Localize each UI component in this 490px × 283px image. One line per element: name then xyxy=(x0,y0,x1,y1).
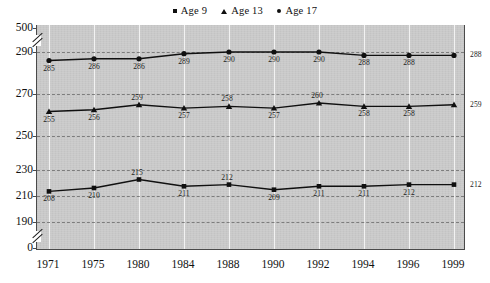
data-point-value-label: 258 xyxy=(358,110,370,118)
y-axis-tick-mark xyxy=(33,170,37,171)
data-point-marker[interactable] xyxy=(272,187,277,192)
y-axis-tick-label: 230 xyxy=(3,164,33,176)
square-marker-icon xyxy=(173,9,177,13)
y-axis-tick-label: 250 xyxy=(3,130,33,142)
axis-break-icon xyxy=(30,228,46,244)
y-axis-ticks: 5002902702502302101900 xyxy=(0,0,33,283)
data-point-marker[interactable] xyxy=(407,182,412,187)
x-axis-tick-label: 1996 xyxy=(397,259,420,271)
data-point-marker[interactable] xyxy=(406,53,411,58)
data-point-value-label: 210 xyxy=(88,192,100,200)
data-point-marker[interactable] xyxy=(452,182,457,187)
data-point-value-label: 290 xyxy=(313,56,325,64)
data-point-value-label: 211 xyxy=(358,190,369,198)
data-point-value-label: 258 xyxy=(221,95,233,103)
data-point-value-label: 215 xyxy=(131,169,143,177)
data-point-value-label: 285 xyxy=(43,65,55,73)
data-point-marker[interactable] xyxy=(46,58,51,63)
y-axis-tick-mark xyxy=(33,222,37,223)
x-axis-tick-label: 1990 xyxy=(262,259,285,271)
x-axis-tick-label: 1984 xyxy=(172,259,195,271)
y-axis-tick-mark xyxy=(33,136,37,137)
data-point-value-label: 257 xyxy=(268,112,280,120)
data-point-marker[interactable] xyxy=(451,53,456,58)
x-axis-tick-label: 1971 xyxy=(37,259,60,271)
data-point-marker[interactable] xyxy=(226,49,231,54)
data-point-value-label: 209 xyxy=(268,194,280,202)
data-point-marker[interactable] xyxy=(271,49,276,54)
data-point-value-label: 208 xyxy=(43,195,55,203)
y-axis-tick-label: 190 xyxy=(3,216,33,228)
x-axis-tick-label: 1988 xyxy=(217,259,240,271)
chart-legend: Age 9 Age 13 Age 17 xyxy=(0,6,490,17)
data-point-value-label: 211 xyxy=(313,190,324,198)
data-point-value-label: 257 xyxy=(178,112,190,120)
y-axis-tick-mark xyxy=(33,94,37,95)
plot-area xyxy=(36,25,465,250)
data-point-value-label: 288 xyxy=(470,51,482,59)
data-point-value-label: 288 xyxy=(403,59,415,67)
series-line-age-13 xyxy=(49,103,454,112)
circle-marker-icon xyxy=(277,9,281,13)
data-point-value-label: 211 xyxy=(178,190,189,198)
y-axis-tick-label: 0 xyxy=(3,242,33,254)
data-point-value-label: 258 xyxy=(403,110,415,118)
data-point-value-label: 256 xyxy=(88,114,100,122)
x-axis-tick-label: 1980 xyxy=(127,259,150,271)
data-point-value-label: 286 xyxy=(88,63,100,71)
data-point-value-label: 290 xyxy=(268,56,280,64)
data-point-value-label: 289 xyxy=(178,58,190,66)
x-axis-tick-label: 1975 xyxy=(82,259,105,271)
data-point-value-label: 212 xyxy=(403,189,415,197)
data-point-marker[interactable] xyxy=(137,177,142,182)
legend-item-age-9[interactable]: Age 9 xyxy=(173,6,207,17)
y-axis-tick-mark xyxy=(33,248,37,249)
legend-item-age-17[interactable]: Age 17 xyxy=(277,6,317,17)
triangle-marker-icon xyxy=(221,9,227,14)
data-point-value-label: 259 xyxy=(470,101,482,109)
data-point-marker[interactable] xyxy=(47,189,52,194)
legend-label-age-9: Age 9 xyxy=(181,6,207,17)
y-axis-tick-label: 290 xyxy=(3,46,33,58)
y-axis-tick-label: 500 xyxy=(3,22,33,34)
data-point-value-label: 260 xyxy=(311,92,323,100)
series-line-age-9 xyxy=(49,180,454,192)
data-point-marker[interactable] xyxy=(136,56,141,61)
data-point-marker[interactable] xyxy=(317,184,322,189)
y-axis-line xyxy=(36,25,37,250)
axis-break-icon xyxy=(30,32,46,48)
data-point-marker[interactable] xyxy=(181,51,186,56)
data-point-value-label: 288 xyxy=(358,59,370,67)
line-chart: Age 9 Age 13 Age 17 50029027025023021019… xyxy=(0,0,490,283)
series-line-age-17 xyxy=(49,52,454,61)
data-point-marker[interactable] xyxy=(182,184,187,189)
x-axis-tick-label: 1999 xyxy=(442,259,465,271)
data-point-marker[interactable] xyxy=(92,186,97,191)
data-point-value-label: 286 xyxy=(133,63,145,71)
legend-label-age-13: Age 13 xyxy=(231,6,263,17)
data-point-value-label: 212 xyxy=(470,181,482,189)
legend-item-age-13[interactable]: Age 13 xyxy=(221,6,263,17)
data-point-marker[interactable] xyxy=(91,56,96,61)
y-axis-tick-mark xyxy=(33,52,37,53)
data-point-value-label: 212 xyxy=(221,174,233,182)
data-point-value-label: 290 xyxy=(223,56,235,64)
y-axis-tick-mark xyxy=(33,196,37,197)
data-point-marker[interactable] xyxy=(361,53,366,58)
series-layer xyxy=(37,25,466,250)
y-axis-tick-label: 270 xyxy=(3,88,33,100)
data-point-marker[interactable] xyxy=(362,184,367,189)
x-axis-tick-label: 1994 xyxy=(352,259,375,271)
y-axis-tick-label: 210 xyxy=(3,190,33,202)
legend-label-age-17: Age 17 xyxy=(285,6,317,17)
data-point-value-label: 259 xyxy=(131,94,143,102)
y-axis-tick-mark xyxy=(33,28,37,29)
x-axis-tick-label: 1992 xyxy=(307,259,330,271)
data-point-marker[interactable] xyxy=(316,49,321,54)
data-point-value-label: 255 xyxy=(43,116,55,124)
data-point-marker[interactable] xyxy=(227,182,232,187)
